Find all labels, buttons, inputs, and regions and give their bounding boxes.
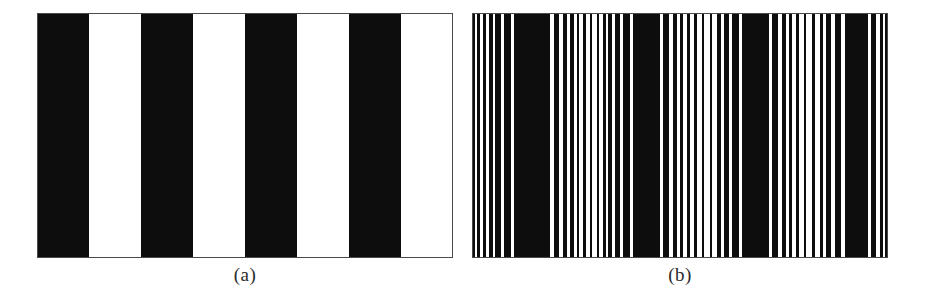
grating-b-stripes (472, 13, 888, 258)
caption-a: (a) (37, 264, 453, 286)
grating-a-stripes (37, 13, 453, 258)
panel-b-dithered-grating (472, 13, 888, 258)
caption-b: (b) (472, 264, 888, 286)
panel-a-square-wave-grating (37, 13, 453, 258)
figure-root: (a) (b) (0, 0, 931, 306)
